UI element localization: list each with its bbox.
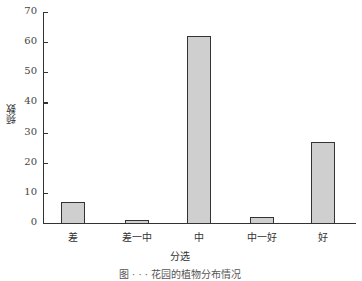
y-tick-label: 60 [13, 35, 37, 46]
bar [311, 142, 335, 224]
y-tick-label: 70 [13, 5, 37, 16]
x-tick-label: 差 [43, 229, 103, 244]
bar [61, 202, 85, 224]
y-tick-mark [43, 72, 48, 73]
y-tick-mark [43, 102, 48, 103]
figure-caption: 图 · · · 花园的植物分布情况 [60, 266, 300, 281]
bar [187, 36, 211, 224]
y-tick-mark [43, 193, 48, 194]
y-tick-label: 50 [13, 65, 37, 76]
y-tick-label: 0 [13, 216, 37, 227]
x-axis-label: 分选 [155, 248, 205, 263]
y-tick-label: 20 [13, 156, 37, 167]
x-tick-label: 差一中 [107, 229, 167, 244]
x-tick-label: 中一好 [232, 229, 292, 244]
y-tick-label: 30 [13, 126, 37, 137]
x-tick-label: 中 [169, 229, 229, 244]
x-tick-label: 好 [293, 229, 353, 244]
y-tick-mark [43, 12, 48, 13]
bar [125, 220, 149, 224]
y-tick-label: 10 [13, 186, 37, 197]
bar [250, 217, 274, 224]
y-tick-mark [43, 163, 48, 164]
y-tick-mark [43, 223, 48, 224]
y-axis-label: 频数 [4, 104, 19, 124]
y-tick-mark [43, 42, 48, 43]
y-tick-mark [43, 133, 48, 134]
